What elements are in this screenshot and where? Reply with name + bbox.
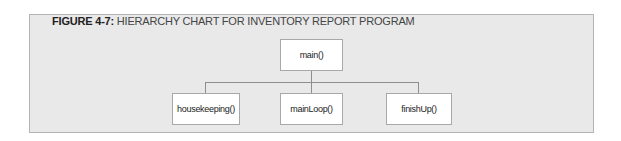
connector-horizontal bbox=[205, 82, 419, 83]
connector-housekeeping bbox=[205, 82, 206, 93]
node-mainloop: mainLoop() bbox=[280, 93, 343, 125]
node-main-label: main() bbox=[300, 50, 324, 60]
node-finishup-label: finishUp() bbox=[401, 104, 437, 114]
node-housekeeping-label: housekeeping() bbox=[177, 104, 235, 114]
figure-label: FIGURE 4-7: bbox=[52, 15, 114, 27]
node-finishup: finishUp() bbox=[386, 93, 452, 125]
node-housekeeping: housekeeping() bbox=[172, 93, 240, 125]
figure-title: HIERARCHY CHART FOR INVENTORY REPORT PRO… bbox=[117, 15, 415, 27]
node-main: main() bbox=[280, 39, 343, 71]
node-mainloop-label: mainLoop() bbox=[290, 104, 333, 114]
connector-mainloop bbox=[311, 82, 312, 93]
connector-root-down bbox=[311, 71, 312, 82]
connector-finishup bbox=[418, 82, 419, 93]
figure-caption: FIGURE 4-7: HIERARCHY CHART FOR INVENTOR… bbox=[52, 15, 414, 28]
